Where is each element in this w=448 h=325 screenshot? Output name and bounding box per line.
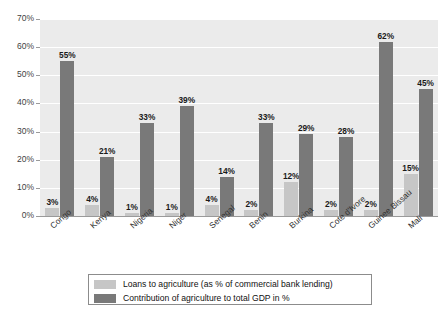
legend-item: Loans to agriculture (as % of commercial… (94, 278, 366, 291)
y-axis-tick-mark (36, 19, 40, 20)
y-axis-tick-mark (36, 75, 40, 76)
bar-value-label: 21% (94, 147, 120, 155)
y-axis-tick-label: 50% (0, 70, 34, 79)
bar (379, 42, 393, 216)
y-axis-tick-label: 40% (0, 98, 34, 107)
bar (419, 89, 433, 216)
bar-value-label: 55% (54, 51, 80, 59)
bar (299, 134, 313, 216)
bar (259, 123, 273, 216)
y-axis-tick-mark (36, 103, 40, 104)
bar (60, 61, 74, 216)
bar (100, 157, 114, 216)
legend-swatch-icon (94, 294, 116, 303)
bar-value-label: 39% (174, 96, 200, 104)
y-axis-tick-mark (36, 188, 40, 189)
bar-value-label: 14% (214, 167, 240, 175)
bar (140, 123, 154, 216)
chart-legend: Loans to agriculture (as % of commercial… (88, 274, 372, 305)
y-axis-tick-label: 10% (0, 183, 34, 192)
bar-value-label: 28% (333, 127, 359, 135)
y-axis-tick-mark (36, 132, 40, 133)
bar-chart: 0%10%20%30%40%50%60%70% 3%55%4%21%1%33%1… (0, 0, 448, 325)
y-axis-tick-mark (36, 47, 40, 48)
legend-swatch-icon (94, 280, 116, 289)
legend-item: Contribution of agriculture to total GDP… (94, 292, 366, 305)
gridline (40, 19, 438, 20)
y-axis-tick-mark (36, 160, 40, 161)
y-axis-tick-label: 20% (0, 155, 34, 164)
bar (180, 106, 194, 216)
bar-value-label: 33% (253, 113, 279, 121)
y-axis-tick-label: 30% (0, 127, 34, 136)
bar-value-label: 33% (134, 113, 160, 121)
y-axis-tick-label: 70% (0, 14, 34, 23)
bar-value-label: 62% (373, 32, 399, 40)
x-axis-category-labels: CongoKenyaNigeriaNigerSenegalBeninBurkin… (0, 219, 448, 275)
bar-value-label: 29% (293, 124, 319, 132)
bar (284, 182, 298, 216)
bar-value-label: 45% (413, 79, 439, 87)
legend-label: Contribution of agriculture to total GDP… (123, 294, 290, 303)
y-axis-tick-label: 60% (0, 42, 34, 51)
legend-label: Loans to agriculture (as % of commercial… (123, 280, 333, 289)
